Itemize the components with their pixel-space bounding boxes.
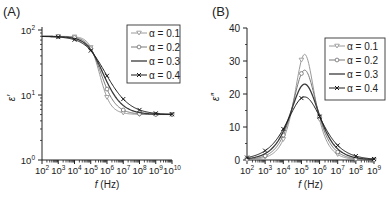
x-tick-label: 103 xyxy=(51,164,66,176)
x-tick-label: 106 xyxy=(100,164,115,176)
x-axis-label: f (Hz) xyxy=(298,179,322,190)
x-tick-label: 104 xyxy=(67,164,82,176)
x-tick-label: 105 xyxy=(294,164,309,176)
legend-label: α = 0.2 xyxy=(347,55,379,66)
legend-label: α = 0.1 xyxy=(347,41,379,52)
x-tick-label: 104 xyxy=(276,164,291,176)
x-tick-label: 102 xyxy=(240,164,255,176)
x-tick-label: 106 xyxy=(312,164,327,176)
marker-cross-icon xyxy=(336,143,340,147)
x-tick-label: 103 xyxy=(258,164,273,176)
x-tick-label: 108 xyxy=(132,164,147,176)
y-tick-label: 0 xyxy=(234,155,240,166)
legend-label: α = 0.3 xyxy=(347,69,379,80)
y-tick-label: 102 xyxy=(21,24,36,36)
x-tick-label: 105 xyxy=(84,164,99,176)
marker-circle-icon xyxy=(121,108,125,112)
y-axis-label: ε″ xyxy=(210,93,221,101)
x-tick-label: 108 xyxy=(349,164,364,176)
x-tick-label: 107 xyxy=(116,164,131,176)
marker-cross-icon xyxy=(105,74,109,78)
x-axis-label: f (Hz) xyxy=(95,179,119,190)
x-tick-label: 107 xyxy=(331,164,346,176)
marker-circle-icon xyxy=(105,87,109,91)
legend-label: α = 0.3 xyxy=(149,56,181,67)
x-tick-label: 1010 xyxy=(163,164,181,176)
legend-label: α = 0.1 xyxy=(149,28,181,39)
panel-b-label: (B) xyxy=(212,4,229,19)
x-tick-label: 109 xyxy=(367,164,382,176)
marker-cross-icon xyxy=(263,149,267,153)
x-tick-label: 109 xyxy=(149,164,164,176)
y-tick-label: 101 xyxy=(21,89,36,101)
figure: (A) (B) 10010110210210310410510610710810… xyxy=(0,0,389,201)
y-tick-label: 30 xyxy=(229,56,241,67)
y-tick-label: 20 xyxy=(229,89,241,100)
chart-canvas: 1001011021021031041051061071081091010ε′f… xyxy=(0,0,389,201)
marker-circle-icon xyxy=(300,72,304,76)
legend-label: α = 0.4 xyxy=(347,83,379,94)
marker-circle-icon xyxy=(335,58,339,62)
y-tick-label: 10 xyxy=(229,122,241,133)
y-tick-label: 40 xyxy=(229,23,241,34)
y-axis-label: ε′ xyxy=(6,94,17,101)
panel-b: 010203040102103104105106107108109ε″f (Hz… xyxy=(210,23,385,191)
panel-a: 1001011021021031041051061071081091010ε′f… xyxy=(6,24,181,191)
panel-a-label: (A) xyxy=(3,4,20,19)
marker-triangle-icon xyxy=(299,58,304,62)
marker-triangle-icon xyxy=(105,95,110,99)
legend-label: α = 0.4 xyxy=(149,70,181,81)
marker-circle-icon xyxy=(137,45,141,49)
marker-cross-icon xyxy=(121,97,125,101)
legend-label: α = 0.2 xyxy=(149,42,181,53)
x-tick-label: 102 xyxy=(35,164,50,176)
y-tick-label: 100 xyxy=(21,154,36,166)
marker-cross-icon xyxy=(299,96,303,100)
